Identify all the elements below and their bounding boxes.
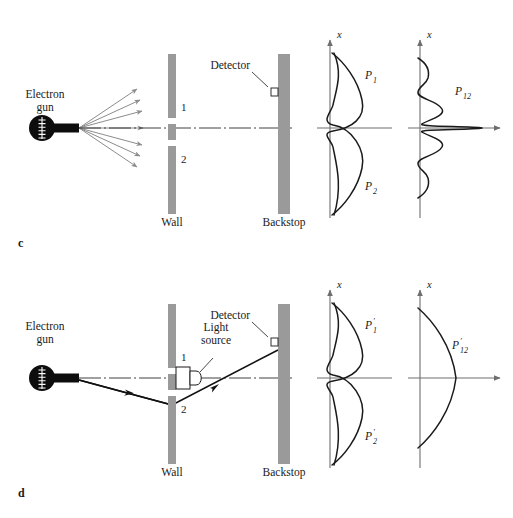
curve-sub-p1-c: 1 [373,76,377,85]
curve-prime-p1-d: ′ [373,317,375,326]
panel-label-c: c [18,236,24,250]
backstop-c [278,54,290,214]
electron-gun-icon-d [29,365,79,391]
panel-d: Electron gun 1 2 Wall [18,279,500,500]
panel-label-d: d [18,486,25,500]
electron-gun-label-line1-d: Electron [26,320,65,332]
panel-c: Electron gun 1 2 Wall [18,29,500,250]
curve-sub-p12-c: 12 [463,92,471,101]
curve-sub-p2-c: 2 [373,187,377,196]
axis-label-x-c-left: x [336,29,342,40]
detector-label-c: Detector [210,59,250,71]
electron-gun-label-line1: Electron [26,88,65,100]
axis-label-x-d-left: x [336,279,342,290]
curve-p2-c [327,53,363,215]
slit-1-label-c: 1 [181,101,187,113]
graph-p12-c: x P 12 [408,29,500,218]
axis-label-x-d-right: x [426,279,432,290]
curve-label-p1-c: P [364,69,372,81]
curve-sub-p1-prime-d: 1 [373,326,377,335]
backstop-d [278,304,290,464]
curve-label-p12-prime-d: P [451,339,459,351]
wall-label-c: Wall [161,216,182,228]
curve-p1-prime-d [327,303,363,465]
curve-p2-prime-d [327,303,363,465]
graph-p1-p2-c: x P 1 P 2 [317,29,392,218]
wall-c [168,54,176,214]
backstop-label-c: Backstop [263,216,306,229]
curve-p1-c [327,53,363,215]
axis-label-x-c-right: x [426,29,432,40]
light-source-label-line1: Light [204,321,230,334]
slit-2-label-c: 2 [181,153,187,165]
physics-figure: Electron gun 1 2 Wall [0,0,513,518]
electron-gun-label-line2: gun [36,101,54,114]
slit-1-label-d: 1 [181,351,187,363]
curve-sub-p12-prime-d: 12 [460,346,468,355]
wall-d [168,304,176,464]
curve-label-p1-prime-d: P [364,319,372,331]
curve-prime-p12-d: ′ [460,337,462,346]
curve-label-p2-prime-d: P [364,430,372,442]
curve-label-p12-c: P [454,85,462,97]
curve-prime-p2-d: ′ [373,428,375,437]
electron-gun-label-line2-d: gun [36,333,54,346]
curve-sub-p2-prime-d: 2 [373,437,377,446]
electron-gun-icon [29,115,79,141]
light-source-label-line2: source [201,334,231,346]
graph-p1p-p2p-d: x P ′ 1 P ′ 2 [317,279,392,468]
detector-label-d: Detector [210,309,250,321]
detector-d [252,322,278,346]
wall-label-d: Wall [161,466,182,478]
detector-c [252,72,278,96]
backstop-label-d: Backstop [263,466,306,479]
curve-label-p2-c: P [364,180,372,192]
graph-p12p-d: x P ′ 12 [408,279,500,468]
slit-2-label-d: 2 [181,403,187,415]
